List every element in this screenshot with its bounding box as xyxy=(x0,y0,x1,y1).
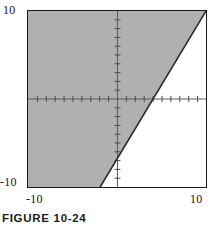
plot-svg xyxy=(28,11,206,187)
x-axis-max-label: 10 xyxy=(190,192,202,207)
x-axis-min-label: -10 xyxy=(26,192,43,207)
y-axis-min-label: -10 xyxy=(0,175,17,190)
y-axis-max-label: 10 xyxy=(3,3,15,18)
figure-container: 10 -10 -10 10 FIGURE 10-24 xyxy=(0,0,214,231)
plot-area xyxy=(27,10,207,188)
figure-caption: FIGURE 10-24 xyxy=(2,212,86,224)
